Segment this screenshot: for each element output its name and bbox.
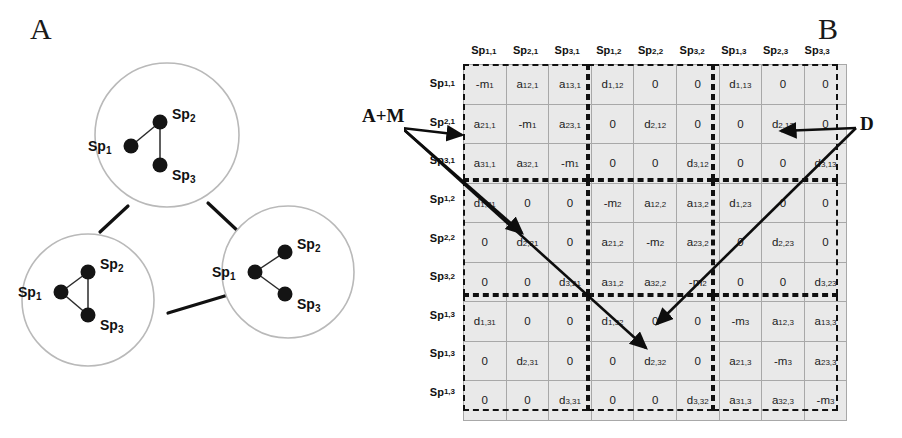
matrix-cell-r4-c5: a12,2 bbox=[634, 183, 677, 223]
matrix-cell-r5-c2: d2,21 bbox=[506, 223, 549, 263]
matrix-cell-r3-c4: 0 bbox=[591, 144, 634, 184]
matrix-cell-r5-c5: -m2 bbox=[634, 223, 677, 263]
matrix-cell-r7-c1: d1,31 bbox=[464, 302, 507, 342]
matrix-cell-r7-c8: a12,3 bbox=[762, 302, 805, 342]
matrix-cell-r8-c2: d2,31 bbox=[506, 341, 549, 381]
matrix-cell-r3-c8: 0 bbox=[762, 144, 805, 184]
community-2-node-sp2 bbox=[81, 265, 96, 280]
matrix-cell-r4-c4: -m2 bbox=[591, 183, 634, 223]
matrix-column-header-5: Sp2,2 bbox=[630, 44, 672, 62]
matrix-cell-r6-c3: d3,21 bbox=[549, 262, 592, 302]
matrix-cell-r4-c7: d1,23 bbox=[719, 183, 762, 223]
matrix-row: d1,2100-m2a12,2a13,2d1,2300 bbox=[464, 183, 847, 223]
matrix-row: -m1a12,1a13,1d1,1200d1,1300 bbox=[464, 65, 847, 105]
community-3-node-sp3 bbox=[278, 287, 293, 302]
matrix-cell-r8-c5: d2,32 bbox=[634, 341, 677, 381]
matrix-cell-r8-c3: 0 bbox=[549, 341, 592, 381]
matrix-cell-r3-c6: d3,12 bbox=[676, 144, 719, 184]
matrix-cell-r9-c4: 0 bbox=[591, 381, 634, 421]
matrix-cell-r6-c9: d3,23 bbox=[804, 262, 847, 302]
matrix-row-headers: Sp1,1Sp2,1Sp3,1Sp1,2Sp2,2Sp3,2Sp1,3Sp1,3… bbox=[408, 64, 460, 411]
panel-b: B Sp1,1Sp2,1Sp3,1Sp1,2Sp2,2Sp3,2Sp1,3Sp2… bbox=[404, 0, 902, 438]
matrix-cell-r1-c3: a13,1 bbox=[549, 65, 592, 105]
matrix-cell-r2-c7: 0 bbox=[719, 104, 762, 144]
matrix-cell-r6-c5: a32,2 bbox=[634, 262, 677, 302]
block-matrix: -m1a12,1a13,1d1,1200d1,1300a21,1-m1a23,1… bbox=[463, 64, 838, 411]
matrix-row-header-5: Sp2,2 bbox=[408, 218, 460, 257]
matrix-cell-r7-c5: 0 bbox=[634, 302, 677, 342]
matrix-cell-r9-c5: 0 bbox=[634, 381, 677, 421]
block-matrix-table: -m1a12,1a13,1d1,1200d1,1300a21,1-m1a23,1… bbox=[463, 64, 847, 421]
community-1-node-sp1 bbox=[124, 139, 139, 154]
matrix-cell-r5-c6: a23,2 bbox=[676, 223, 719, 263]
matrix-cell-r1-c9: 0 bbox=[804, 65, 847, 105]
annotation-label-am: A+M bbox=[362, 105, 404, 127]
matrix-column-header-2: Sp2,1 bbox=[505, 44, 547, 62]
matrix-cell-r6-c1: 0 bbox=[464, 262, 507, 302]
matrix-row: a31,1a32,1-m100d3,1200d3,13 bbox=[464, 144, 847, 184]
community-2: Sp1 Sp2 Sp3 bbox=[18, 234, 154, 366]
dispersal-link-c1-c3 bbox=[208, 203, 240, 233]
matrix-row: 0d2,3100d2,320a21,3-m3a23,3 bbox=[464, 341, 847, 381]
matrix-cell-r9-c8: a32,3 bbox=[762, 381, 805, 421]
matrix-column-header-3: Sp3,1 bbox=[546, 44, 588, 62]
matrix-cell-r2-c1: a21,1 bbox=[464, 104, 507, 144]
community-3-node-sp1 bbox=[248, 265, 263, 280]
matrix-cell-r4-c2: 0 bbox=[506, 183, 549, 223]
matrix-cell-r8-c1: 0 bbox=[464, 341, 507, 381]
matrix-column-header-9: Sp3,3 bbox=[796, 44, 838, 62]
matrix-cell-r1-c8: 0 bbox=[762, 65, 805, 105]
matrix-cell-r1-c7: d1,13 bbox=[719, 65, 762, 105]
matrix-cell-r6-c7: 0 bbox=[719, 262, 762, 302]
matrix-cell-r2-c3: a23,1 bbox=[549, 104, 592, 144]
matrix-cell-r7-c4: d1,32 bbox=[591, 302, 634, 342]
matrix-cell-r2-c5: d2,12 bbox=[634, 104, 677, 144]
community-1-node-sp2 bbox=[153, 115, 168, 130]
matrix-cell-r3-c2: a32,1 bbox=[506, 144, 549, 184]
matrix-row: a21,1-m1a23,10d2,1200d2,130 bbox=[464, 104, 847, 144]
matrix-cell-r4-c6: a13,2 bbox=[676, 183, 719, 223]
matrix-cell-r8-c6: 0 bbox=[676, 341, 719, 381]
matrix-cell-r3-c3: -m1 bbox=[549, 144, 592, 184]
dispersal-link-c2-c3 bbox=[168, 295, 228, 313]
matrix-cell-r5-c1: 0 bbox=[464, 223, 507, 263]
matrix-cell-r5-c8: d2,23 bbox=[762, 223, 805, 263]
matrix-cell-r7-c3: 0 bbox=[549, 302, 592, 342]
matrix-cell-r5-c9: 0 bbox=[804, 223, 847, 263]
matrix-cell-r8-c7: a21,3 bbox=[719, 341, 762, 381]
dispersal-link-c1-c2 bbox=[100, 206, 128, 232]
matrix-cell-r3-c9: d3,13 bbox=[804, 144, 847, 184]
panel-a-letter: A bbox=[30, 14, 52, 44]
matrix-row-header-8: Sp1,3 bbox=[408, 334, 460, 373]
matrix-cell-r3-c5: 0 bbox=[634, 144, 677, 184]
matrix-row: d1,3100d1,3200-m3a12,3a13,3 bbox=[464, 302, 847, 342]
community-1-boundary bbox=[95, 63, 239, 207]
matrix-cell-r5-c4: a21,2 bbox=[591, 223, 634, 263]
community-2-node-sp3 bbox=[81, 308, 96, 323]
matrix-cell-r1-c5: 0 bbox=[634, 65, 677, 105]
matrix-row-header-9: Sp1,3 bbox=[408, 373, 460, 412]
matrix-cell-r8-c8: -m3 bbox=[762, 341, 805, 381]
community-3-boundary bbox=[222, 206, 354, 338]
annotation-label-d: D bbox=[860, 113, 874, 135]
matrix-cell-r7-c7: -m3 bbox=[719, 302, 762, 342]
matrix-cell-r2-c6: 0 bbox=[676, 104, 719, 144]
matrix-cell-r2-c2: -m1 bbox=[506, 104, 549, 144]
matrix-cell-r9-c1: 0 bbox=[464, 381, 507, 421]
matrix-cell-r7-c9: a13,3 bbox=[804, 302, 847, 342]
matrix-row-header-3: Sp3,1 bbox=[408, 141, 460, 180]
matrix-cell-r2-c4: 0 bbox=[591, 104, 634, 144]
matrix-cell-r4-c3: 0 bbox=[549, 183, 592, 223]
matrix-row-header-7: Sp1,3 bbox=[408, 295, 460, 334]
matrix-cell-r3-c7: 0 bbox=[719, 144, 762, 184]
matrix-cell-r3-c1: a31,1 bbox=[464, 144, 507, 184]
matrix-column-header-7: Sp1,3 bbox=[713, 44, 755, 62]
matrix-cell-r8-c4: 0 bbox=[591, 341, 634, 381]
matrix-cell-r4-c1: d1,21 bbox=[464, 183, 507, 223]
matrix-cell-r4-c8: 0 bbox=[762, 183, 805, 223]
matrix-cell-r1-c2: a12,1 bbox=[506, 65, 549, 105]
matrix-cell-r2-c9: 0 bbox=[804, 104, 847, 144]
community-2-node-sp1 bbox=[54, 285, 69, 300]
matrix-cell-r6-c2: 0 bbox=[506, 262, 549, 302]
matrix-column-header-1: Sp1,1 bbox=[463, 44, 505, 62]
